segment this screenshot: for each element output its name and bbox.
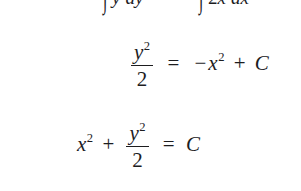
numerator-exponent-2: 2 [144,39,150,53]
equation-line-solution: x2 + y2 2 = C [77,122,200,171]
differential-dy: dy [126,0,144,8]
equation-line-antiderivative: y2 2 = −x2 + C [128,41,269,90]
fraction-numerator: y2 [131,41,153,63]
solution-constant-c: C [186,132,200,156]
solution-fraction-denominator-2: 2 [126,149,148,171]
term-variable-x: x [208,51,217,75]
integral-sign-left: ∫ [103,0,107,16]
equation-line-integrals: ∫ydy ∫2xdx [103,0,249,9]
solution-equals-sign: = [163,132,175,157]
math-document-page: ∫ydy ∫2xdx y2 2 = −x2 + C x2 + y2 2 = C [0,0,301,191]
integral-sign-right: ∫ [199,0,203,16]
fraction-denominator-2: 2 [131,68,153,90]
integrand-variable-y: y [112,0,120,8]
equals-sign: = [167,51,179,76]
solution-fraction-numerator: y2 [126,122,148,144]
solution-fraction-y-squared-over-two: y2 2 [126,122,148,171]
fraction-y-squared-over-two: y2 2 [131,41,153,90]
solution-term-exponent-2: 2 [87,131,93,145]
integrand-coefficient-2: 2 [208,0,218,8]
solution-plus-sign: + [102,132,114,157]
solution-term-variable-x: x [77,132,86,156]
integration-constant-c: C [255,51,269,75]
numerator-variable-y: y [134,40,143,64]
integrand-variable-x: x [218,0,226,8]
minus-sign: − [194,51,206,76]
differential-dx: dx [231,0,249,8]
term-exponent-2: 2 [218,50,224,64]
plus-sign: + [234,51,246,76]
solution-numerator-exponent-2: 2 [139,120,145,134]
solution-numerator-variable-y: y [129,121,138,145]
